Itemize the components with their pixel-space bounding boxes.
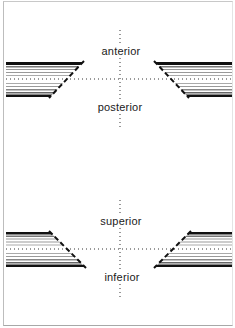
label-superior: superior [99, 215, 142, 227]
label-posterior: posterior [97, 101, 144, 113]
label-anterior: anterior [101, 45, 142, 57]
label-inferior: inferior [103, 271, 140, 283]
